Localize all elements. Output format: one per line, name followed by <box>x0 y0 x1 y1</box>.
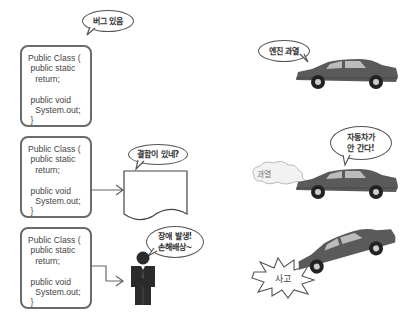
code-line: return; <box>28 256 90 266</box>
car-stopped-text-1: 자동차가 <box>347 132 375 143</box>
code-line <box>28 175 90 185</box>
code-line: public static <box>28 154 90 164</box>
document-icon <box>123 170 189 222</box>
code-line: } <box>28 206 90 216</box>
code-line: } <box>28 115 90 125</box>
bubble-tail <box>136 160 146 170</box>
code-line: public void <box>28 277 90 287</box>
failure-bubble-text-1: 장애 발생! <box>158 231 192 242</box>
code-line: Public Class ( <box>28 235 90 245</box>
code-box-2: Public Class ( public static return; pub… <box>20 136 92 218</box>
code-line: System.out; <box>28 105 90 115</box>
accident-text: 사고 <box>275 272 291 285</box>
code-line: System.out; <box>28 196 90 206</box>
code-line: public static <box>28 245 90 255</box>
code-line <box>28 266 90 276</box>
smoke-text: 과열 <box>257 168 271 179</box>
arrow-icon <box>92 265 132 295</box>
code-line: return; <box>28 74 90 84</box>
code-line <box>28 84 90 94</box>
code-line: public void <box>28 186 90 196</box>
code-line: return; <box>28 165 90 175</box>
car-stopped-speech-bubble: 자동차가 안 간다! <box>330 126 392 160</box>
bubble-tail <box>343 155 353 167</box>
code-line: public static <box>28 63 90 73</box>
person-icon <box>128 251 158 305</box>
car-icon <box>294 168 400 200</box>
code-line: public void <box>28 95 90 105</box>
code-box-1: Public Class ( public static return; pub… <box>20 45 92 127</box>
bubble-tail <box>87 27 97 37</box>
code-box-3: Public Class ( public static return; pub… <box>20 227 92 309</box>
failure-bubble-text-2: 손해배상~ <box>158 242 193 253</box>
car-icon <box>291 218 402 280</box>
engine-bubble-text: 엔진 과열 <box>269 46 300 57</box>
car-stopped-text-2: 안 간다! <box>347 143 374 154</box>
code-line: Public Class ( <box>28 53 90 63</box>
defect-bubble-text: 결함이 있네? <box>137 149 179 160</box>
code-line: System.out; <box>28 287 90 297</box>
code-line: Public Class ( <box>28 144 90 154</box>
code-line: } <box>28 297 90 307</box>
bug-bubble-text: 버그 있음 <box>93 16 124 27</box>
car-icon <box>294 58 400 90</box>
